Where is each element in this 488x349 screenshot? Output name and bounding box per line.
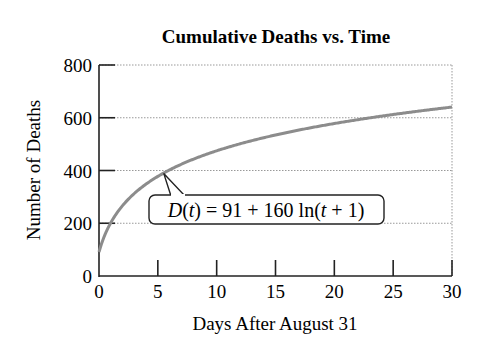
y-tick-label: 400 <box>64 161 93 182</box>
y-axis-label: Number of Deaths <box>23 100 44 240</box>
y-tick-label: 0 <box>83 266 93 287</box>
x-tick-label: 25 <box>384 281 403 302</box>
equation-annotation: D(t) = 91 + 160 ln(t + 1) <box>149 173 384 224</box>
x-tick-label: 0 <box>94 281 104 302</box>
gridlines <box>99 65 452 276</box>
data-line <box>99 107 452 252</box>
y-tick-label: 600 <box>64 108 93 129</box>
x-tick-label: 10 <box>207 281 226 302</box>
x-tick-label: 5 <box>153 281 163 302</box>
equation-label: D(t) = 91 + 160 ln(t + 1) <box>167 199 365 222</box>
x-tick-label: 30 <box>443 281 462 302</box>
y-tick-label: 800 <box>64 55 93 76</box>
x-axis-label: Days After August 31 <box>192 313 357 334</box>
x-tick-label: 15 <box>266 281 285 302</box>
y-tick-labels: 0200400600800 <box>64 55 93 287</box>
x-tick-label: 20 <box>325 281 344 302</box>
y-tick-label: 200 <box>64 213 93 234</box>
chart-title: Cumulative Deaths vs. Time <box>162 26 390 47</box>
x-tick-labels: 051015202530 <box>94 281 461 302</box>
annotation-pointer <box>164 173 185 196</box>
chart: Cumulative Deaths vs. Time 0200400600800… <box>0 0 488 349</box>
